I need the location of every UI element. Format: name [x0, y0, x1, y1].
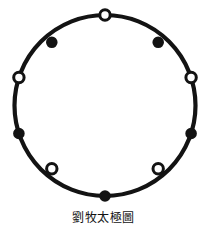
node-marker-top: [100, 10, 110, 20]
node-marker-upper-left: [47, 38, 56, 47]
node-marker-bottom-left: [47, 164, 57, 174]
node-marker-lower-right: [187, 129, 196, 138]
node-marker-upper-right: [154, 38, 163, 47]
node-marker-lower-left: [14, 129, 23, 138]
ring-circle: [15, 15, 196, 196]
node-marker-bottom-right: [153, 164, 163, 174]
node-marker-right: [186, 72, 196, 82]
node-marker-left: [14, 72, 24, 82]
figure-caption: 劉牧太極圖: [0, 210, 207, 226]
figure-container: 劉牧太極圖: [0, 0, 207, 239]
taiji-ring-diagram: [0, 0, 207, 212]
node-marker-bottom: [100, 191, 109, 200]
